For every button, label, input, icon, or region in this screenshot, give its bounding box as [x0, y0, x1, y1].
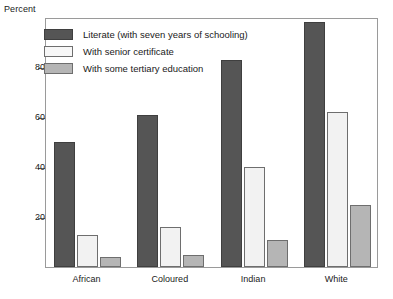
legend-item: With senior certificate	[44, 44, 248, 58]
legend-label: With some tertiary education	[83, 63, 203, 74]
y-axis-tick-label: 60	[11, 113, 45, 122]
x-axis-label-white: White	[295, 274, 378, 284]
legend-label: Literate (with seven years of schooling)	[83, 29, 248, 40]
bar-coloured-series-1	[160, 227, 181, 267]
bar-white-series-1	[327, 112, 348, 267]
bar-coloured-series-0	[137, 115, 158, 268]
x-axis-label-african: African	[45, 274, 128, 284]
y-axis: 20406080	[0, 0, 45, 299]
bar-indian-series-1	[244, 167, 265, 267]
legend-item: Literate (with seven years of schooling)	[44, 27, 248, 41]
bar-african-series-2	[100, 257, 121, 267]
bar-indian-series-2	[267, 240, 288, 268]
bar-coloured-series-2	[183, 255, 204, 268]
legend-swatch-icon	[44, 63, 73, 74]
chart-legend: Literate (with seven years of schooling)…	[44, 27, 248, 78]
legend-swatch-icon	[44, 29, 73, 40]
bar-african-series-0	[54, 142, 75, 267]
x-axis-label-coloured: Coloured	[128, 274, 211, 284]
y-axis-tick-label: 40	[11, 163, 45, 172]
bar-african-series-1	[77, 235, 98, 268]
y-axis-tick-label: 80	[11, 63, 45, 72]
bar-white-series-2	[350, 205, 371, 268]
y-axis-tick-label: 20	[11, 213, 45, 222]
bar-white-series-0	[304, 22, 325, 267]
legend-item: With some tertiary education	[44, 61, 248, 75]
x-axis-label-indian: Indian	[212, 274, 295, 284]
legend-swatch-icon	[44, 46, 73, 57]
bar-indian-series-0	[221, 60, 242, 268]
legend-label: With senior certificate	[83, 46, 174, 57]
